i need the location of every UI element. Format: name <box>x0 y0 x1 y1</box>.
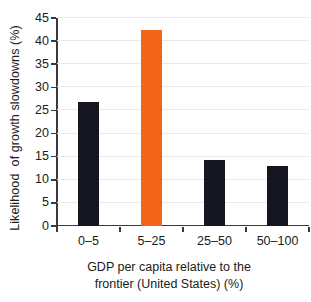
y-tick-label: 45 <box>19 12 49 25</box>
x-axis-title-line-2: frontier (United States) (%) <box>36 276 302 293</box>
bar <box>141 30 161 226</box>
x-tick-mark <box>245 227 247 232</box>
y-tick-label: 35 <box>19 58 49 71</box>
y-tick-label: 0 <box>19 220 49 233</box>
bar <box>267 166 287 226</box>
x-tick-label: 0–5 <box>57 235 120 248</box>
gridline <box>57 17 309 18</box>
y-tick-label: 5 <box>19 196 49 209</box>
y-tick-label: 30 <box>19 81 49 94</box>
y-tick-label: 40 <box>19 35 49 48</box>
x-tick-mark <box>119 227 121 232</box>
plot-area <box>57 18 309 226</box>
x-tick-mark <box>56 227 58 232</box>
gridline <box>57 63 309 64</box>
x-tick-label: 25–50 <box>183 235 246 248</box>
bar <box>78 102 98 226</box>
x-tick-mark <box>308 227 310 232</box>
y-tick-label: 25 <box>19 104 49 117</box>
x-tick-label: 5–25 <box>120 235 183 248</box>
x-tick-label: 50–100 <box>246 235 309 248</box>
x-axis-title: GDP per capita relative to the frontier … <box>36 259 302 293</box>
x-tick-mark <box>182 227 184 232</box>
x-axis-title-line-1: GDP per capita relative to the <box>87 260 251 274</box>
gridline <box>57 40 309 41</box>
bar <box>204 160 224 226</box>
gridline <box>57 86 309 87</box>
y-tick-label: 20 <box>19 127 49 140</box>
bar-chart-figure: Likelihood of growth slowdowns (%) 05101… <box>0 0 311 302</box>
y-tick-label: 10 <box>19 173 49 186</box>
y-tick-label: 15 <box>19 150 49 163</box>
